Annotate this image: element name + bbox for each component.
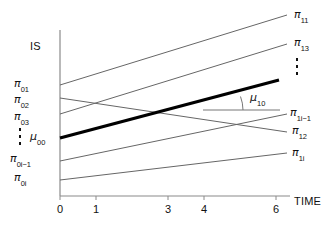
label-pi-1-3: π13 [294,37,309,48]
series-line-pi0i [60,153,287,180]
pi-glyph: π [14,110,21,123]
mu-glyph: μ [250,91,257,104]
pi-glyph: π [10,152,17,165]
label-pi-1-1: π11 [294,9,308,20]
label-pi-1-i-minus-1: π1i−1 [290,107,311,118]
pi-1-1-subscript: 11 [301,16,309,25]
pi-glyph: π [14,93,21,106]
mu-0-0-subscript: 00 [37,138,45,147]
left-vertical-ellipsis-icon [16,128,24,145]
pi-glyph: π [14,171,21,184]
x-tick-label-4: 4 [197,204,211,215]
label-mu-0-0: μ00 [30,131,45,142]
label-pi-1-2: π12 [292,125,307,136]
pi-0-2-subscript: 02 [21,101,29,110]
pi-1-2-subscript: 12 [299,132,307,141]
pi-glyph: π [294,8,301,21]
figure-root: IS TIME 0 1 3 4 6 π01 π02 π03 μ00 π0i−1 … [0,0,326,231]
x-tick-label-1: 1 [89,204,103,215]
pi-0-i-minus-1-subscript: 0i−1 [17,160,31,169]
mu-glyph: μ [30,130,37,143]
label-pi-0-2: π02 [14,94,29,105]
angle-arc [241,97,244,111]
pi-0-1-subscript: 01 [21,85,29,94]
label-mu-1-0: μ10 [250,92,265,103]
x-tick-label-3: 3 [161,204,175,215]
pi-glyph: π [294,36,301,49]
label-pi-0-3: π03 [14,111,29,122]
right-vertical-ellipsis-icon [293,58,301,75]
pi-1-i-subscript: 1i [299,154,305,163]
x-axis-label: TIME [294,196,321,207]
series-line-pi0i-minus-1 [60,114,287,161]
highlighted-series-line-mu [60,80,279,138]
pi-glyph: π [292,146,299,159]
pi-1-3-subscript: 13 [301,44,309,53]
label-pi-0-i: π0i [14,172,26,183]
label-pi-0-i-minus-1: π0i−1 [10,153,31,164]
mu-1-0-subscript: 10 [257,99,265,108]
plot-canvas [0,0,326,231]
pi-1-i-minus-1-subscript: 1i−1 [297,114,311,123]
pi-glyph: π [292,124,299,137]
x-axis-ticks [60,196,276,200]
pi-0-i-subscript: 0i [21,179,27,188]
pi-glyph: π [290,106,297,119]
y-axis-label: IS [30,41,41,52]
x-tick-label-0: 0 [53,204,67,215]
pi-0-3-subscript: 03 [21,118,29,127]
pi-glyph: π [14,77,21,90]
label-pi-1-i: π1i [292,147,304,158]
label-pi-0-1: π01 [14,78,29,89]
x-tick-label-6: 6 [269,204,283,215]
series-line-pi01 [60,15,287,85]
